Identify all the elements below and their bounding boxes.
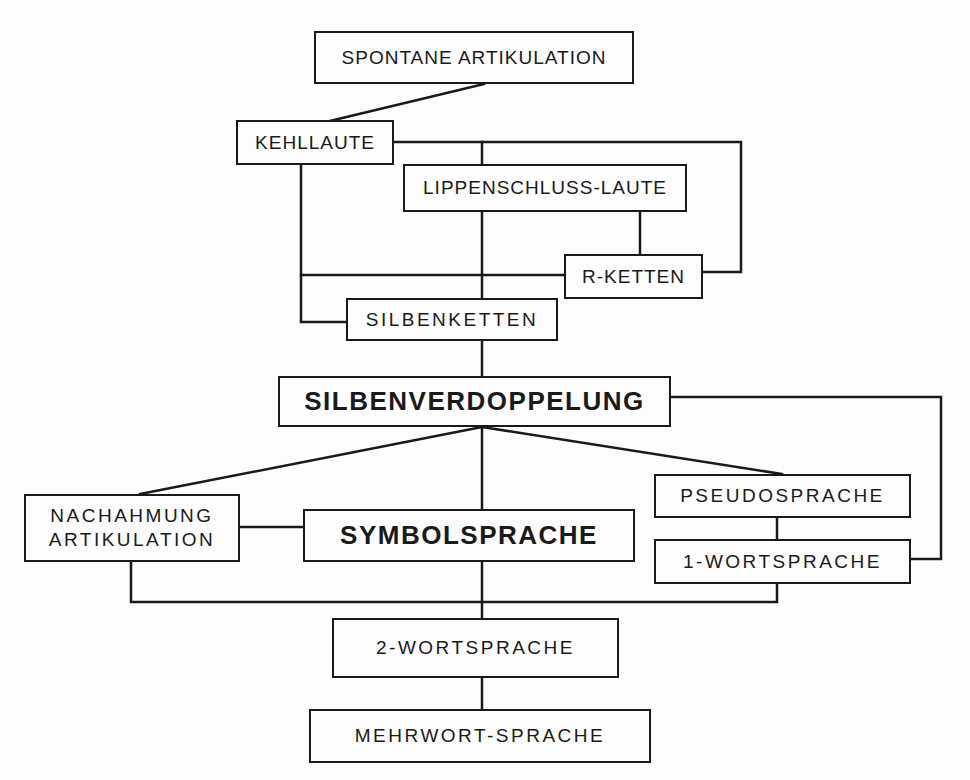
node-label: SILBENKETTEN bbox=[366, 308, 539, 332]
node-pseudosprache: PSEUDOSPRACHE bbox=[654, 474, 911, 518]
node-silbenverdoppelung: SILBENVERDOPPELUNG bbox=[278, 376, 671, 427]
node-2-wortsprache: 2-WORTSPRACHE bbox=[332, 618, 619, 678]
node-label: PSEUDOSPRACHE bbox=[680, 484, 885, 508]
node-label: 1-WORTSPRACHE bbox=[683, 550, 882, 574]
node-label: 2-WORTSPRACHE bbox=[376, 636, 575, 660]
node-symbolsprache: SYMBOLSPRACHE bbox=[303, 509, 635, 562]
node-1-wortsprache: 1-WORTSPRACHE bbox=[654, 539, 911, 584]
node-mehrwort-sprache: MEHRWORT-SPRACHE bbox=[309, 709, 651, 763]
node-nachahmung-artikulation: NACHAHMUNG ARTIKULATION bbox=[24, 494, 240, 562]
node-label: MEHRWORT-SPRACHE bbox=[355, 724, 605, 748]
node-label: SILBENVERDOPPELUNG bbox=[304, 385, 645, 418]
node-label: SPONTANE ARTIKULATION bbox=[342, 46, 607, 70]
node-label: SYMBOLSPRACHE bbox=[340, 519, 598, 552]
node-label: LIPPENSCHLUSS-LAUTE bbox=[423, 176, 667, 200]
node-lippenschluss-laute: LIPPENSCHLUSS-LAUTE bbox=[403, 164, 687, 212]
node-kehllaute: KEHLLAUTE bbox=[236, 120, 394, 165]
node-label: R-KETTEN bbox=[582, 265, 685, 289]
node-r-ketten: R-KETTEN bbox=[564, 254, 703, 299]
node-label: NACHAHMUNG ARTIKULATION bbox=[49, 504, 216, 552]
node-label: KEHLLAUTE bbox=[255, 131, 375, 155]
node-spontane-artikulation: SPONTANE ARTIKULATION bbox=[314, 31, 634, 84]
diagram-canvas: SPONTANE ARTIKULATION KEHLLAUTE LIPPENSC… bbox=[0, 0, 970, 780]
node-silbenketten: SILBENKETTEN bbox=[346, 298, 558, 341]
